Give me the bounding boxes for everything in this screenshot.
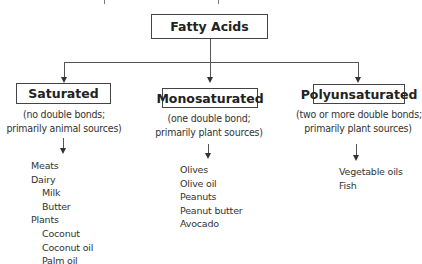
arrow-down-icon — [353, 155, 359, 161]
description-line: primarily animal sources) — [0, 121, 128, 135]
polyunsaturated-drop-connector — [358, 62, 359, 78]
list-item: Avocado — [180, 217, 243, 231]
list-item: Peanut butter — [180, 204, 243, 218]
root-node-fatty-acids: Fatty Acids — [151, 14, 268, 39]
description-line: (one double bond; — [150, 111, 268, 125]
description-line: primarily plant sources) — [150, 125, 268, 139]
list-item: Palm oil — [31, 254, 93, 264]
branch-horizontal-connector — [64, 62, 359, 63]
saturated-food-list: Meats Dairy Milk Butter Plants Coconut C… — [31, 159, 93, 264]
root-node-label: Fatty Acids — [170, 19, 248, 34]
category-label: Saturated — [28, 86, 98, 101]
root-stem-connector — [210, 39, 211, 63]
category-label: Polyunsaturated — [301, 87, 418, 102]
list-item: Vegetable oils — [339, 165, 403, 179]
list-item: Fish — [339, 179, 403, 193]
list-item: Meats — [31, 159, 93, 173]
description-line: (two or more double bonds; — [296, 107, 420, 121]
description-line: (no double bonds; — [0, 107, 128, 121]
list-item: Plants — [31, 213, 93, 227]
arrow-down-icon — [60, 148, 66, 154]
list-item: Coconut — [31, 227, 93, 241]
monosaturated-food-list: Olives Olive oil Peanuts Peanut butter A… — [180, 163, 243, 231]
list-item: Dairy — [31, 173, 93, 187]
category-node-polyunsaturated: Polyunsaturated — [313, 84, 405, 104]
list-item: Peanuts — [180, 190, 243, 204]
arrow-down-icon — [207, 77, 213, 83]
list-item: Coconut oil — [31, 241, 93, 255]
category-node-monosaturated: Monosaturated — [162, 88, 258, 108]
list-item: Olives — [180, 163, 243, 177]
arrow-down-icon — [205, 153, 211, 159]
monosaturated-drop-connector — [210, 62, 211, 78]
category-description-monosaturated: (one double bond; primarily plant source… — [150, 111, 268, 139]
category-label: Monosaturated — [156, 91, 263, 106]
cutoff-text-fragment — [104, 0, 105, 4]
category-description-polyunsaturated: (two or more double bonds; primarily pla… — [296, 107, 420, 135]
category-node-saturated: Saturated — [16, 83, 111, 104]
list-item: Olive oil — [180, 177, 243, 191]
description-line: primarily plant sources) — [296, 121, 420, 135]
cutoff-text-fragment — [218, 0, 219, 4]
arrow-down-icon — [355, 77, 361, 83]
saturated-drop-connector — [64, 62, 65, 78]
category-description-saturated: (no double bonds; primarily animal sourc… — [0, 107, 128, 135]
polyunsaturated-food-list: Vegetable oils Fish — [339, 165, 403, 192]
list-item: Butter — [31, 200, 93, 214]
list-item: Milk — [31, 186, 93, 200]
